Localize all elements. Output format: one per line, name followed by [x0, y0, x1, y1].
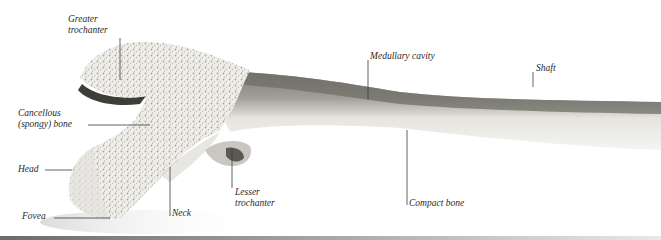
label-lesser-trochanter: Lesser trochanter [235, 187, 275, 209]
label-shaft: Shaft [536, 63, 556, 74]
label-head: Head [18, 164, 39, 175]
bottom-divider [0, 236, 661, 240]
label-greater-trochanter: Greater trochanter [68, 14, 108, 36]
femur-illustration [0, 0, 661, 240]
femur-diagram: Greater trochanter Cancellous (spongy) b… [0, 0, 661, 240]
label-compact-bone: Compact bone [409, 198, 464, 209]
label-fovea: Fovea [22, 211, 46, 222]
label-neck: Neck [172, 208, 191, 219]
label-medullary-cavity: Medullary cavity [370, 51, 435, 62]
label-cancellous-bone: Cancellous (spongy) bone [18, 108, 72, 130]
